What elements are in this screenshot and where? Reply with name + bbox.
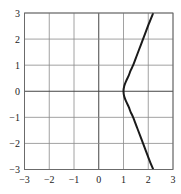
x-tick-label: −3 bbox=[19, 174, 30, 185]
grid bbox=[25, 13, 174, 170]
x-tick-label: 0 bbox=[96, 174, 101, 185]
chart: −3−2−10123 −3−2−10123 bbox=[0, 0, 181, 194]
y-tick-label: 3 bbox=[15, 8, 20, 19]
y-tick-label: 2 bbox=[15, 34, 20, 45]
x-tick-label: 3 bbox=[171, 174, 176, 185]
y-tick-label: 0 bbox=[15, 86, 20, 97]
y-tick-label: −2 bbox=[9, 138, 20, 149]
x-tick-label: 2 bbox=[146, 174, 151, 185]
x-tick-label: 1 bbox=[121, 174, 126, 185]
y-tick-label: −3 bbox=[9, 164, 20, 175]
x-tick-label: −1 bbox=[69, 174, 80, 185]
x-tick-label: −2 bbox=[44, 174, 55, 185]
x-axis-ticks: −3−2−10123 bbox=[19, 174, 175, 185]
y-tick-label: −1 bbox=[9, 112, 20, 123]
y-tick-label: 1 bbox=[15, 60, 20, 71]
y-axis-ticks: −3−2−10123 bbox=[9, 8, 20, 176]
